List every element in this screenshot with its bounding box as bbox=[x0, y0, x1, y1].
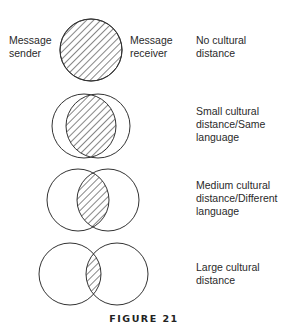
sender-label: Messagesender bbox=[9, 34, 52, 60]
row-label-small-distance: Small culturaldistance/Samelanguage bbox=[196, 105, 265, 144]
venn-row-1 bbox=[52, 94, 130, 158]
venn-row-2 bbox=[47, 169, 139, 231]
receiver-label: Messagereceiver bbox=[130, 34, 173, 60]
figure-caption: FIGURE 21 bbox=[0, 313, 288, 324]
row-label-large-distance: Large culturaldistance bbox=[196, 261, 260, 287]
row-label-no-distance: No culturaldistance bbox=[196, 34, 246, 60]
row-label-medium-distance: Medium culturaldistance/Differentlanguag… bbox=[196, 179, 278, 218]
venn-row-0 bbox=[60, 19, 122, 81]
venn-row-3 bbox=[39, 243, 148, 305]
